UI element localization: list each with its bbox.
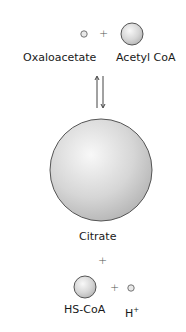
proton-icon (128, 285, 134, 291)
citrate-label: Citrate (79, 231, 116, 243)
acetyl-coa-molecule-icon (121, 23, 143, 45)
reaction-diagram (0, 0, 186, 332)
citrate-molecule-icon (50, 119, 152, 221)
acetyl-coa-label: Acetyl CoA (116, 52, 175, 64)
hs-coa-label: HS-CoA (64, 304, 105, 316)
equilibrium-arrows-icon (95, 76, 105, 108)
proton-charge: + (133, 306, 139, 314)
oxaloacetate-label: Oxaloacetate (23, 52, 96, 64)
proton-label: H+ (125, 304, 139, 320)
oxaloacetate-molecule-icon (81, 31, 87, 37)
plus-sign-bottom: + (110, 282, 119, 293)
plus-sign-top: + (99, 28, 108, 39)
plus-sign-middle: + (98, 255, 107, 266)
hs-coa-molecule-icon (74, 276, 96, 298)
